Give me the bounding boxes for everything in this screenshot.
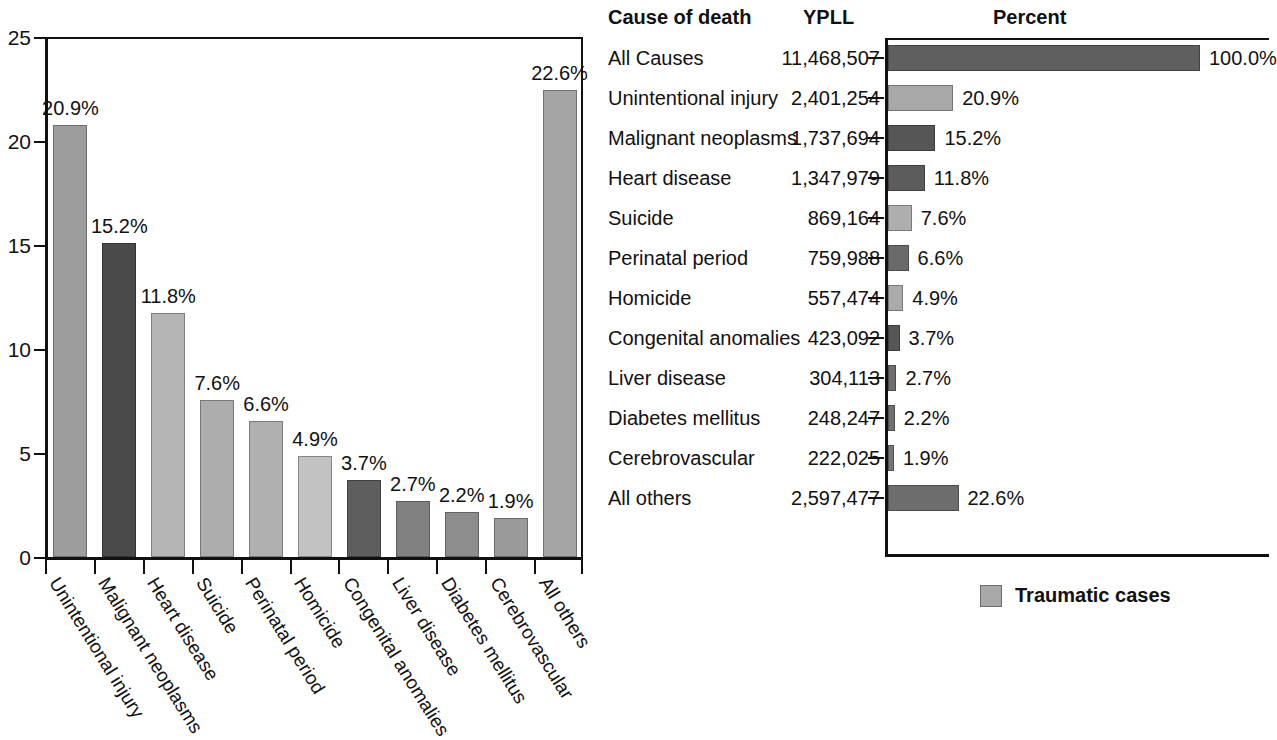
y-tick-mark [34,141,45,143]
cell-cause-of-death: All others [608,487,691,510]
horizontal-bar-value-label: 1.9% [903,447,949,470]
horizontal-bar-row: 100.0% [888,38,1272,78]
horizontal-bar [888,445,894,471]
horizontal-bar-row: 3.7% [888,318,1272,358]
bar-column: 1.9% [489,37,533,557]
legend-label-traumatic-cases: Traumatic cases [1015,584,1171,607]
x-tick-mark [485,560,487,574]
bar [347,480,381,557]
legend-swatch-traumatic-cases [980,585,1002,607]
y-tick-label: 25 [8,27,31,48]
horizontal-bar [888,45,1200,71]
horizontal-bar-row: 2.7% [888,358,1272,398]
cell-cause-of-death: Diabetes mellitus [608,407,760,430]
x-tick-mark [290,560,292,574]
row-tick-mark [868,457,884,459]
bar-value-label: 3.7% [341,453,387,473]
cell-cause-of-death: Heart disease [608,167,731,190]
row-tick-mark [868,137,884,139]
horizontal-bar-row: 15.2% [888,118,1272,158]
x-axis-category-label: Suicide [193,574,242,637]
horizontal-bar-row: 7.6% [888,198,1272,238]
x-tick-mark [436,560,438,574]
x-tick-mark [338,560,340,574]
bar-value-label: 15.2% [91,216,148,236]
horizontal-bar-value-label: 6.6% [918,247,964,270]
bar-column: 3.7% [342,37,386,557]
cell-cause-of-death: Liver disease [608,367,726,390]
bar-column: 7.6% [195,37,239,557]
y-tick-label: 10 [8,339,31,360]
bar-column: 4.9% [293,37,337,557]
bar-value-label: 2.2% [439,485,485,505]
bar [298,456,332,557]
x-tick-mark [387,560,389,574]
y-tick-mark [34,37,45,39]
horizontal-bar-value-label: 100.0% [1209,47,1277,70]
bar [396,501,430,557]
bar-column: 2.2% [440,37,484,557]
bar-column: 22.6% [538,37,582,557]
horizontal-bar-value-label: 4.9% [912,287,958,310]
horizontal-bar-row: 11.8% [888,158,1272,198]
x-tick-mark [534,560,536,574]
y-tick-label: 0 [19,547,31,568]
cell-cause-of-death: All Causes [608,47,704,70]
row-tick-mark [868,177,884,179]
horizontal-bar [888,485,959,511]
bar [53,125,87,557]
horizontal-bar-value-label: 3.7% [909,327,955,350]
legend: Traumatic cases [980,584,1171,607]
cell-ypll: 2,401,254 [755,87,880,110]
row-tick-mark [868,337,884,339]
x-tick-mark [94,560,96,574]
bar-value-label: 1.9% [488,491,534,511]
cell-ypll: 222,025 [755,447,880,470]
cell-ypll: 869,164 [755,207,880,230]
y-tick-label: 20 [8,131,31,152]
row-tick-mark [868,417,884,419]
horizontal-bar-value-label: 7.6% [921,207,967,230]
bar [151,313,185,557]
ypll-table-panel: Cause of death YPLL Percent All Causes11… [600,0,1269,728]
cell-ypll: 248,247 [755,407,880,430]
horizontal-bar-row: 22.6% [888,478,1272,518]
bar [543,90,577,557]
y-tick-label: 5 [19,443,31,464]
row-tick-mark [868,297,884,299]
y-tick-mark [34,349,45,351]
cell-ypll: 1,737,694 [755,127,880,150]
bar-column: 15.2% [97,37,141,557]
bar-column: 11.8% [146,37,190,557]
x-tick-mark [192,560,194,574]
horizontal-bar [888,325,900,351]
x-tick-mark [45,560,47,574]
bar [249,421,283,557]
horizontal-bar [888,285,903,311]
horizontal-bar [888,165,925,191]
bar-value-label: 2.7% [390,474,436,494]
y-axis: 0510152025 [0,0,45,728]
cell-ypll: 423,092 [755,327,880,350]
bar [102,243,136,557]
y-tick-label: 15 [8,235,31,256]
horizontal-bar [888,85,953,111]
row-tick-mark [868,217,884,219]
bar-value-label: 11.8% [141,286,196,306]
y-tick-mark [34,453,45,455]
cell-cause-of-death: Suicide [608,207,674,230]
horizontal-bar-value-label: 11.8% [934,167,989,190]
horizontal-bars-group: 100.0%20.9%15.2%11.8%7.6%6.6%4.9%3.7%2.7… [885,38,1269,557]
bar [494,518,528,557]
bar [445,512,479,557]
bar-value-label: 4.9% [292,429,338,449]
horizontal-bar-row: 2.2% [888,398,1272,438]
cell-ypll: 759,988 [755,247,880,270]
row-tick-mark [868,377,884,379]
vertical-bars-group: 20.9%15.2%11.8%7.6%6.6%4.9%3.7%2.7%2.2%1… [45,37,583,557]
horizontal-bar-value-label: 20.9% [962,87,1019,110]
horizontal-bar [888,125,935,151]
cell-cause-of-death: Cerebrovascular [608,447,755,470]
bar-column: 20.9% [48,37,92,557]
y-tick-mark [34,557,45,559]
